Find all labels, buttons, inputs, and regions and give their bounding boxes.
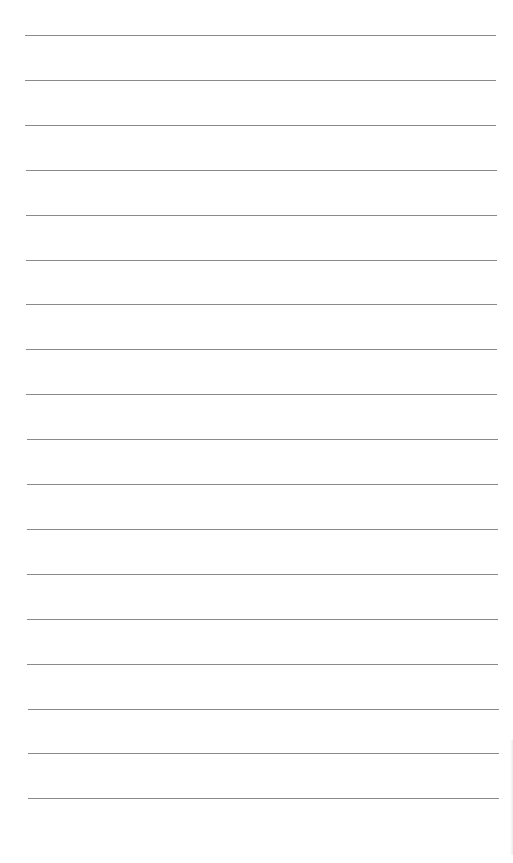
ruled-line xyxy=(28,798,499,799)
ruled-line xyxy=(27,619,498,620)
ruled-line xyxy=(25,125,496,126)
ruled-line xyxy=(26,349,497,350)
ruled-line xyxy=(28,709,499,710)
ruled-line xyxy=(25,35,496,36)
ruled-line xyxy=(26,170,497,171)
ruled-line xyxy=(27,529,498,530)
ruled-line xyxy=(27,574,498,575)
ruled-line xyxy=(26,394,497,395)
lined-paper-page xyxy=(0,0,513,863)
ruled-line xyxy=(27,664,498,665)
ruled-line xyxy=(26,304,497,305)
ruled-line xyxy=(27,439,498,440)
ruled-line xyxy=(25,80,496,81)
ruled-line xyxy=(26,215,497,216)
ruled-line xyxy=(28,753,499,754)
ruled-line xyxy=(27,484,498,485)
ruled-line xyxy=(26,260,497,261)
